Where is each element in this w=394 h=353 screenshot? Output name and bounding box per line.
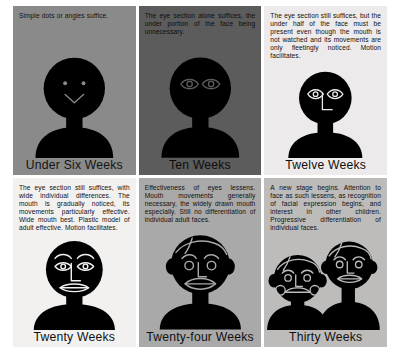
panel-label: Twenty Weeks: [13, 330, 136, 347]
face-illustration-brows-eyes-nose-mouth: [13, 233, 136, 330]
panel-twenty-four-weeks: Effectiveness of eyes lessens. Mouth mov…: [139, 178, 262, 347]
face-illustration-full-head-with-hair: [139, 224, 262, 330]
panel-ten-weeks: The eye section alone suffices, the unde…: [139, 6, 262, 175]
panel-twelve-weeks: The eye section still suffices, but the …: [264, 6, 387, 175]
panel-caption: A new stage begins. Attention to face as…: [264, 178, 387, 233]
panel-caption: The eye section alone suffices, the unde…: [139, 6, 262, 36]
panel-thirty-weeks: A new stage begins. Attention to face as…: [264, 178, 387, 347]
face-illustration-dots-and-angle: [13, 20, 136, 158]
panel-caption: The eye section still suffices, with wid…: [13, 178, 136, 233]
panel-label: Ten Weeks: [139, 158, 262, 175]
panel-under-six-weeks: Simple dots or angles suffice. Under Six…: [13, 6, 136, 175]
face-illustration-eyes-and-nose: [264, 61, 387, 158]
face-illustration-eyes-only: [139, 36, 262, 158]
panel-label: Twenty-four Weeks: [139, 330, 262, 347]
face-perception-stages-figure: Simple dots or angles suffice. Under Six…: [0, 0, 394, 353]
panel-caption: Effectiveness of eyes lessens. Mouth mov…: [139, 178, 262, 224]
face-illustration-two-children: [264, 233, 387, 330]
panel-label: Twelve Weeks: [264, 158, 387, 175]
panel-caption: Simple dots or angles suffice.: [13, 6, 136, 20]
panel-twenty-weeks: The eye section still suffices, with wid…: [13, 178, 136, 347]
panel-caption: The eye section still suffices, but the …: [264, 6, 387, 61]
panel-label: Under Six Weeks: [13, 158, 136, 175]
panel-label: Thirty Weeks: [264, 330, 387, 347]
